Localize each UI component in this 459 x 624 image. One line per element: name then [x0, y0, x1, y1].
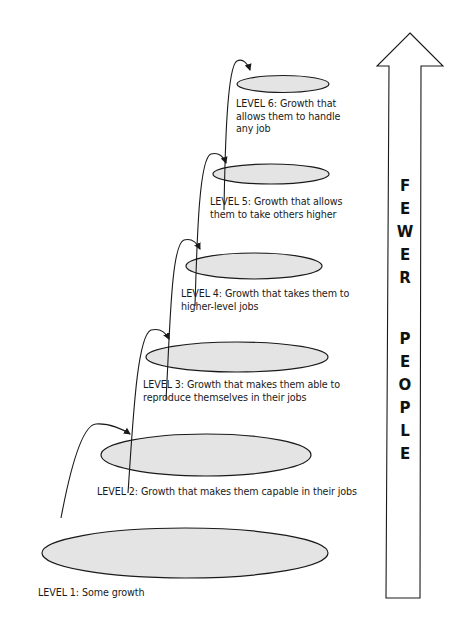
- arrow-letter: E: [389, 353, 421, 371]
- level-4-label-line-1: LEVEL 4: Growth that takes them to: [181, 288, 349, 301]
- level-2-label: LEVEL 2: Growth that makes them capable …: [97, 486, 357, 499]
- level-6-label-line-1: LEVEL 6: Growth that: [236, 98, 340, 111]
- fewer-people-arrow: [377, 33, 443, 598]
- arrow-letter: O: [389, 376, 421, 394]
- level-5-label-line-1: LEVEL 5: Growth that allows: [210, 196, 342, 209]
- level-4-label-line-2: higher-level jobs: [181, 301, 349, 314]
- level-4-label: LEVEL 4: Growth that takes them to highe…: [181, 288, 349, 313]
- level-1-label: LEVEL 1: Some growth: [38, 587, 144, 600]
- level-5-label: LEVEL 5: Growth that allows them to take…: [210, 196, 342, 221]
- arrow-letter: E: [389, 200, 421, 218]
- level-4-ellipse: [186, 253, 322, 279]
- level-6-label: LEVEL 6: Growth that allows them to hand…: [236, 98, 340, 136]
- arrow-letter: E: [389, 246, 421, 264]
- level-6-label-line-3: any job: [236, 123, 340, 136]
- arrow-letter: W: [389, 223, 421, 241]
- arrow-letter: L: [389, 422, 421, 440]
- step-arrow-1-to-2: [61, 424, 130, 518]
- arrow-letter: P: [389, 399, 421, 417]
- arrow-letter: E: [389, 445, 421, 463]
- level-6-label-line-2: allows them to handle: [236, 111, 340, 124]
- arrow-letter: R: [389, 269, 421, 287]
- level-5-ellipse: [213, 164, 329, 184]
- level-5-label-line-2: them to take others higher: [210, 209, 342, 222]
- level-3-label-line-1: LEVEL 3: Growth that makes them able to: [143, 379, 340, 392]
- level-1-label-line: LEVEL 1: Some growth: [38, 587, 144, 600]
- level-6-ellipse: [237, 76, 329, 93]
- level-2-label-line: LEVEL 2: Growth that makes them capable …: [97, 486, 357, 499]
- level-1-ellipse: [42, 528, 328, 578]
- arrow-letter: F: [389, 177, 421, 195]
- level-3-label-line-2: reproduce themselves in their jobs: [143, 392, 340, 405]
- level-2-ellipse: [101, 434, 311, 476]
- arrow-letter: P: [389, 330, 421, 348]
- level-3-label: LEVEL 3: Growth that makes them able to …: [143, 379, 340, 404]
- level-3-ellipse: [146, 342, 328, 372]
